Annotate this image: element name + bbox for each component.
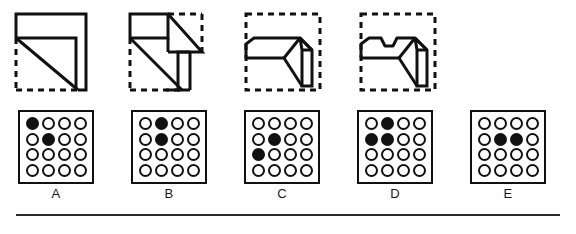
- dot-slot[interactable]: [266, 163, 282, 179]
- dot-slot[interactable]: [395, 132, 411, 148]
- dot-empty[interactable]: [42, 148, 55, 161]
- dot-slot[interactable]: [379, 132, 395, 148]
- dot-empty[interactable]: [478, 117, 491, 130]
- dot-slot[interactable]: [24, 116, 40, 132]
- dot-empty[interactable]: [284, 117, 297, 130]
- dot-empty[interactable]: [171, 117, 184, 130]
- dot-slot[interactable]: [411, 163, 427, 179]
- dot-empty[interactable]: [171, 133, 184, 146]
- dot-empty[interactable]: [42, 164, 55, 177]
- dot-slot[interactable]: [40, 147, 56, 163]
- dot-slot[interactable]: [250, 163, 266, 179]
- dot-slot[interactable]: [508, 132, 524, 148]
- dot-empty[interactable]: [397, 148, 410, 161]
- dot-empty[interactable]: [58, 164, 71, 177]
- dot-empty[interactable]: [171, 148, 184, 161]
- dot-slot[interactable]: [476, 163, 492, 179]
- dot-slot[interactable]: [476, 132, 492, 148]
- dot-empty[interactable]: [187, 164, 200, 177]
- dot-slot[interactable]: [524, 163, 540, 179]
- dot-empty[interactable]: [74, 117, 87, 130]
- dot-empty[interactable]: [413, 164, 426, 177]
- dot-slot[interactable]: [72, 116, 88, 132]
- dot-slot[interactable]: [56, 163, 72, 179]
- dot-slot[interactable]: [56, 132, 72, 148]
- dot-slot[interactable]: [298, 116, 314, 132]
- dot-empty[interactable]: [413, 117, 426, 130]
- option-b[interactable]: B: [119, 108, 219, 208]
- dot-slot[interactable]: [137, 163, 153, 179]
- dot-empty[interactable]: [26, 148, 39, 161]
- dot-slot[interactable]: [266, 147, 282, 163]
- dot-empty[interactable]: [26, 133, 39, 146]
- dot-slot[interactable]: [153, 163, 169, 179]
- dot-slot[interactable]: [169, 116, 185, 132]
- dot-empty[interactable]: [284, 148, 297, 161]
- dot-slot[interactable]: [185, 132, 201, 148]
- dot-empty[interactable]: [58, 148, 71, 161]
- dot-filled[interactable]: [26, 117, 39, 130]
- dot-slot[interactable]: [395, 163, 411, 179]
- dot-filled[interactable]: [494, 133, 507, 146]
- dot-slot[interactable]: [137, 116, 153, 132]
- dot-empty[interactable]: [397, 164, 410, 177]
- option-c[interactable]: C: [232, 108, 332, 208]
- dot-empty[interactable]: [478, 148, 491, 161]
- dot-empty[interactable]: [494, 164, 507, 177]
- dot-empty[interactable]: [252, 117, 265, 130]
- option-d[interactable]: D: [345, 108, 445, 208]
- dot-slot[interactable]: [492, 132, 508, 148]
- dot-empty[interactable]: [74, 164, 87, 177]
- option-d-grid[interactable]: [357, 110, 433, 184]
- dot-filled[interactable]: [252, 148, 265, 161]
- dot-empty[interactable]: [268, 148, 281, 161]
- dot-empty[interactable]: [58, 117, 71, 130]
- dot-filled[interactable]: [155, 117, 168, 130]
- dot-slot[interactable]: [524, 116, 540, 132]
- dot-filled[interactable]: [381, 117, 394, 130]
- option-e[interactable]: E: [458, 108, 558, 208]
- dot-empty[interactable]: [300, 148, 313, 161]
- dot-slot[interactable]: [492, 163, 508, 179]
- dot-empty[interactable]: [494, 117, 507, 130]
- dot-slot[interactable]: [153, 147, 169, 163]
- dot-empty[interactable]: [139, 133, 152, 146]
- dot-empty[interactable]: [187, 133, 200, 146]
- dot-slot[interactable]: [153, 116, 169, 132]
- dot-empty[interactable]: [494, 148, 507, 161]
- dot-slot[interactable]: [137, 132, 153, 148]
- dot-empty[interactable]: [155, 148, 168, 161]
- dot-empty[interactable]: [187, 117, 200, 130]
- dot-slot[interactable]: [363, 116, 379, 132]
- dot-slot[interactable]: [379, 163, 395, 179]
- dot-slot[interactable]: [508, 163, 524, 179]
- dot-empty[interactable]: [268, 164, 281, 177]
- dot-slot[interactable]: [282, 132, 298, 148]
- dot-empty[interactable]: [413, 148, 426, 161]
- dot-empty[interactable]: [365, 117, 378, 130]
- dot-empty[interactable]: [478, 164, 491, 177]
- dot-slot[interactable]: [282, 116, 298, 132]
- dot-empty[interactable]: [155, 164, 168, 177]
- dot-empty[interactable]: [397, 133, 410, 146]
- dot-slot[interactable]: [137, 147, 153, 163]
- dot-slot[interactable]: [524, 147, 540, 163]
- dot-slot[interactable]: [476, 116, 492, 132]
- dot-slot[interactable]: [508, 147, 524, 163]
- dot-empty[interactable]: [478, 133, 491, 146]
- dot-slot[interactable]: [411, 132, 427, 148]
- dot-empty[interactable]: [26, 164, 39, 177]
- dot-slot[interactable]: [250, 147, 266, 163]
- option-a[interactable]: A: [6, 108, 106, 208]
- dot-empty[interactable]: [381, 148, 394, 161]
- dot-slot[interactable]: [24, 163, 40, 179]
- dot-slot[interactable]: [72, 163, 88, 179]
- dot-slot[interactable]: [363, 147, 379, 163]
- dot-empty[interactable]: [187, 148, 200, 161]
- dot-empty[interactable]: [510, 148, 523, 161]
- dot-slot[interactable]: [524, 132, 540, 148]
- dot-slot[interactable]: [411, 147, 427, 163]
- dot-slot[interactable]: [411, 116, 427, 132]
- dot-empty[interactable]: [284, 164, 297, 177]
- dot-slot[interactable]: [282, 163, 298, 179]
